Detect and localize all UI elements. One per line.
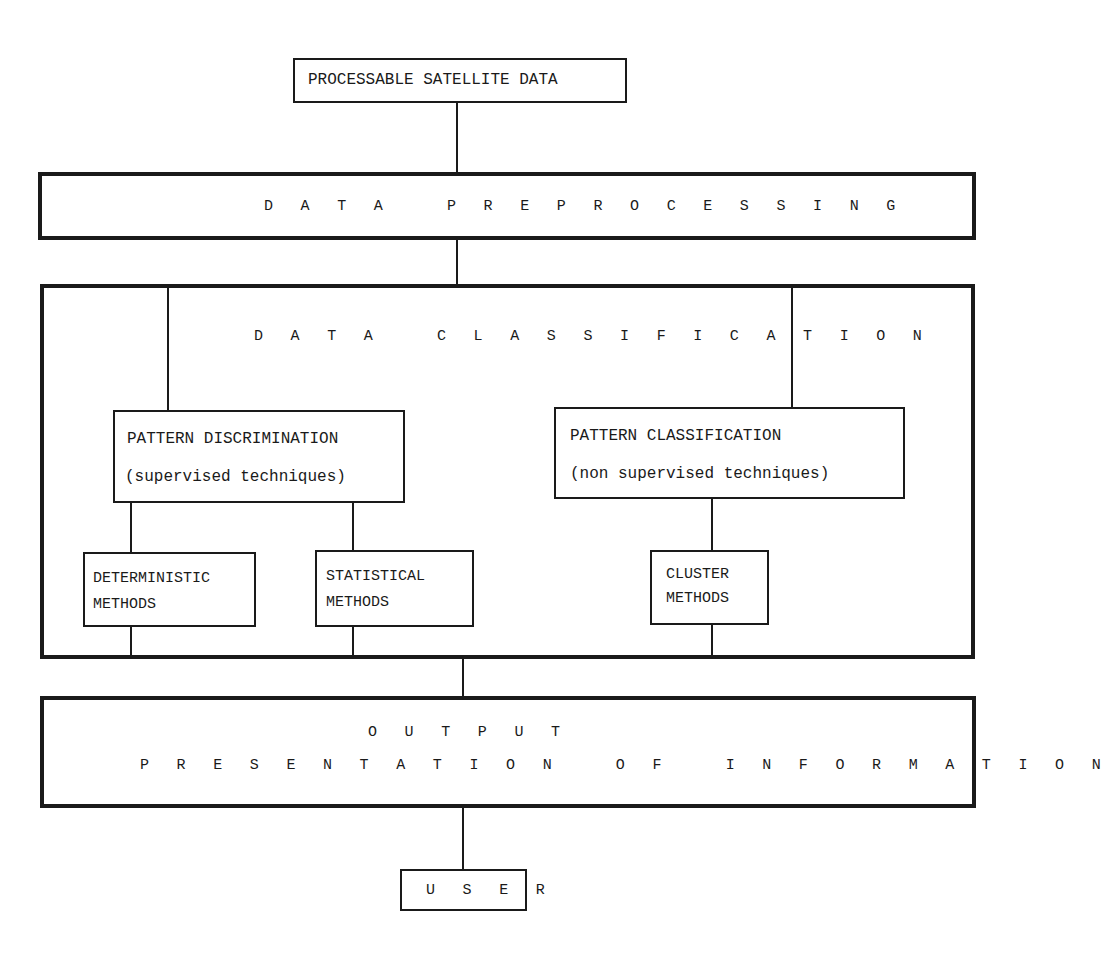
- connector-classification-patternclass: [791, 287, 793, 408]
- node-title: PATTERN DISCRIMINATION: [127, 430, 338, 448]
- connector-deterministic-bottom: [130, 626, 132, 657]
- node-label: PROCESSABLE SATELLITE DATA: [308, 71, 558, 89]
- connector-classification-discrimination: [167, 287, 169, 411]
- node-title: PATTERN CLASSIFICATION: [570, 427, 781, 445]
- node-user: U S E R: [400, 869, 527, 911]
- node-line2: METHODS: [93, 597, 156, 612]
- node-line1: DETERMINISTIC: [93, 571, 210, 586]
- node-line1: STATISTICAL: [326, 569, 425, 584]
- node-subtitle: (non supervised techniques): [570, 465, 829, 483]
- node-statistical-methods: STATISTICAL METHODS: [315, 550, 474, 627]
- node-line2: P R E S E N T A T I O N O F I N F O R M …: [140, 757, 1105, 774]
- node-pattern-classification: PATTERN CLASSIFICATION (non supervised t…: [554, 407, 905, 499]
- connector-source-preprocessing: [456, 102, 458, 174]
- connector-discrimination-statistical: [352, 502, 354, 551]
- connector-preprocessing-classification: [456, 239, 458, 286]
- connector-patternclass-cluster: [711, 498, 713, 551]
- node-pattern-discrimination: PATTERN DISCRIMINATION (supervised techn…: [113, 410, 405, 503]
- node-cluster-methods: CLUSTER METHODS: [650, 550, 769, 625]
- node-processable-satellite-data: PROCESSABLE SATELLITE DATA: [293, 58, 627, 103]
- node-data-preprocessing: D A T A P R E P R O C E S S I N G: [38, 172, 976, 240]
- node-output: O U T P U T P R E S E N T A T I O N O F …: [40, 696, 976, 808]
- connector-output-user: [462, 807, 464, 870]
- node-line1: CLUSTER: [666, 567, 729, 582]
- node-label: D A T A C L A S S I F I C A T I O N: [254, 328, 931, 345]
- node-label: D A T A P R E P R O C E S S I N G: [264, 198, 905, 215]
- node-line1: O U T P U T: [368, 724, 569, 741]
- node-subtitle: (supervised techniques): [125, 468, 346, 486]
- node-line2: METHODS: [666, 591, 729, 606]
- connector-discrimination-deterministic: [130, 502, 132, 553]
- connector-classification-output: [462, 658, 464, 698]
- node-deterministic-methods: DETERMINISTIC METHODS: [83, 552, 256, 627]
- connector-cluster-bottom: [711, 624, 713, 657]
- connector-statistical-bottom: [352, 626, 354, 657]
- node-label: U S E R: [426, 882, 554, 899]
- node-line2: METHODS: [326, 595, 389, 610]
